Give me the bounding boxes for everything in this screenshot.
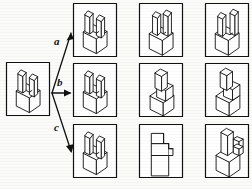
arrow-label-b: b: [57, 77, 63, 88]
arrow-label-a: a: [54, 36, 60, 47]
reference-box: [7, 63, 50, 116]
figure-canvas: [0, 0, 252, 189]
arrow-b: [52, 90, 72, 97]
figure-sheet: a b c: [0, 0, 252, 189]
arrow-label-c: c: [54, 122, 59, 133]
cell-r1c2-object: [149, 10, 173, 55]
